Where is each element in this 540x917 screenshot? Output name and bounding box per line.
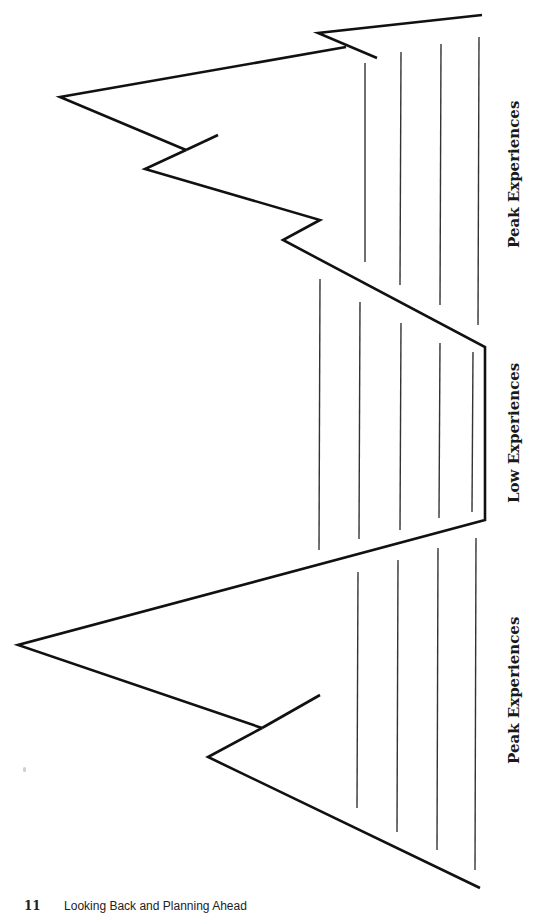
- hatching-upper-peak: [365, 37, 479, 325]
- book-title: Looking Back and Planning Ahead: [64, 899, 247, 913]
- mountain-outline-spur-lower: [262, 695, 320, 728]
- label-peak-experiences-bottom: Peak Experiences: [505, 617, 523, 764]
- mountain-outline: [318, 15, 482, 58]
- mountain-outline-drawing: [0, 0, 540, 917]
- mountain-outline-spur-upper: [186, 135, 218, 150]
- mountain-outline-middle: [18, 150, 485, 728]
- mountain-diagram: Peak Experiences Low Experiences Peak Ex…: [0, 0, 540, 917]
- mountain-outline-upper-peak: [60, 47, 346, 150]
- label-peak-experiences-top: Peak Experiences: [505, 101, 523, 248]
- label-low-experiences: Low Experiences: [505, 363, 523, 503]
- mountain-outline-lower: [208, 728, 480, 888]
- hatching-lower-peak: [357, 538, 476, 870]
- page-footer: 11 Looking Back and Planning Ahead: [24, 899, 247, 913]
- page-number: 11: [24, 899, 41, 913]
- scan-speck: [23, 767, 26, 772]
- hatching-low-valley: [319, 279, 473, 550]
